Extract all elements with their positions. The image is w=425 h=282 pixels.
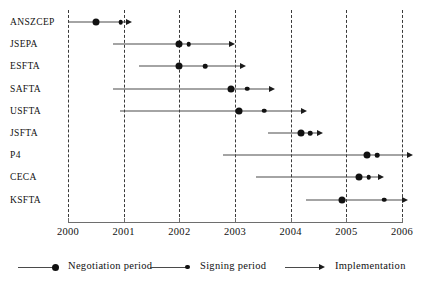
- signing-marker-ceca: [366, 175, 371, 180]
- timeline-bar-ksfta: [306, 199, 402, 200]
- legend-signing-dot-icon: [185, 265, 190, 270]
- legend-implementation-arrow-icon: [319, 264, 325, 270]
- row-label-ceca: CECA: [10, 172, 37, 182]
- legend-line-2: [285, 267, 321, 268]
- implementation-arrow-icon-safta: [269, 86, 275, 92]
- signing-marker-anszcep: [119, 20, 124, 25]
- x-axis-tick-2000: [68, 218, 69, 223]
- row-label-jsfta: JSFTA: [10, 128, 38, 138]
- negotiation-marker-ceca: [356, 174, 363, 181]
- negotiation-marker-esfta: [176, 63, 183, 70]
- legend-line-0: [18, 267, 54, 268]
- signing-marker-p4: [375, 153, 380, 158]
- gridline-2004: [291, 10, 292, 222]
- plot-area: ANSZCEPJSEPAESFTASAFTAUSFTAJSFTAP4CECAKS…: [0, 0, 425, 240]
- timeline-chart: ANSZCEPJSEPAESFTASAFTAUSFTAJSFTAP4CECAKS…: [0, 0, 425, 282]
- row-label-esfta: ESFTA: [10, 61, 40, 71]
- x-axis-tick-2002: [179, 218, 180, 223]
- legend-label-0: Negotiation period: [68, 260, 152, 271]
- signing-marker-ksfta: [382, 197, 387, 202]
- x-axis-tick-label-2002: 2002: [168, 226, 190, 237]
- legend-line-1: [150, 267, 186, 268]
- gridline-2003: [235, 10, 236, 222]
- implementation-arrow-icon-ceca: [378, 174, 384, 180]
- row-label-safta: SAFTA: [10, 84, 41, 94]
- implementation-arrow-icon-jsfta: [317, 130, 323, 136]
- x-axis-tick-label-2004: 2004: [280, 226, 302, 237]
- row-label-anszcep: ANSZCEP: [10, 17, 55, 27]
- row-label-usfta: USFTA: [10, 106, 41, 116]
- legend-negotiation-dot-icon: [52, 264, 59, 271]
- signing-marker-jsepa: [186, 42, 191, 47]
- negotiation-marker-usfta: [235, 107, 242, 114]
- timeline-bar-usfta: [120, 110, 302, 111]
- signing-marker-safta: [245, 86, 250, 91]
- x-axis-tick-2003: [235, 218, 236, 223]
- x-axis-tick-2001: [124, 218, 125, 223]
- legend-label-1: Signing period: [200, 260, 266, 271]
- x-axis-tick-2004: [291, 218, 292, 223]
- negotiation-marker-safta: [228, 85, 235, 92]
- gridline-2001: [124, 10, 125, 222]
- implementation-arrow-icon-p4: [407, 152, 413, 158]
- implementation-arrow-icon-esfta: [240, 63, 246, 69]
- chart-legend: Negotiation periodSigning periodImplemen…: [0, 248, 425, 282]
- signing-marker-jsfta: [308, 131, 313, 136]
- x-axis-tick-label-2001: 2001: [113, 226, 135, 237]
- signing-marker-esfta: [203, 64, 208, 69]
- row-label-ksfta: KSFTA: [10, 195, 41, 205]
- row-label-p4: P4: [10, 150, 21, 160]
- x-axis-tick-label-2006: 2006: [391, 226, 413, 237]
- x-axis-tick-2005: [346, 218, 347, 223]
- negotiation-marker-p4: [364, 152, 371, 159]
- x-axis-tick-label-2000: 2000: [57, 226, 79, 237]
- timeline-bar-jsepa: [113, 44, 230, 45]
- x-axis-tick-label-2005: 2005: [335, 226, 357, 237]
- x-axis-tick-label-2003: 2003: [224, 226, 246, 237]
- gridline-2005: [346, 10, 347, 222]
- timeline-bar-p4: [223, 155, 408, 156]
- legend-label-2: Implementation: [335, 260, 406, 271]
- negotiation-marker-ksfta: [339, 196, 346, 203]
- implementation-arrow-icon-jsepa: [229, 41, 235, 47]
- implementation-arrow-icon-anszcep: [126, 19, 132, 25]
- implementation-arrow-icon-ksfta: [402, 197, 408, 203]
- gridline-2000: [68, 10, 69, 222]
- gridline-2006: [402, 10, 403, 222]
- negotiation-marker-jsfta: [297, 130, 304, 137]
- signing-marker-usfta: [262, 109, 267, 114]
- implementation-arrow-icon-usfta: [301, 108, 307, 114]
- timeline-bar-esfta: [139, 66, 241, 67]
- negotiation-marker-anszcep: [92, 19, 99, 26]
- row-label-jsepa: JSEPA: [10, 39, 38, 49]
- x-axis-tick-2006: [402, 218, 403, 223]
- negotiation-marker-jsepa: [176, 41, 183, 48]
